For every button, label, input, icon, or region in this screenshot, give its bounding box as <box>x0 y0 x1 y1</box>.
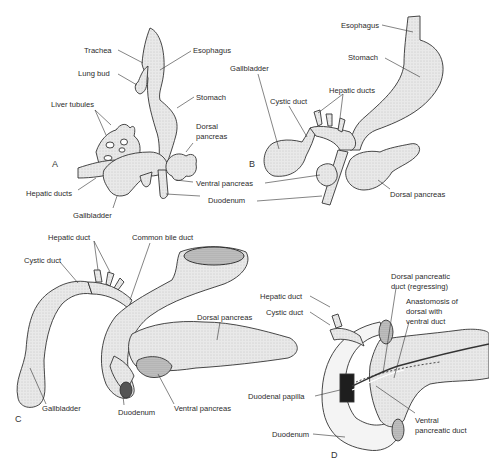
label-d-hepatic-duct: Hepatic duct <box>260 292 302 301</box>
label-a-gallbladder: Gallbladder <box>73 211 112 220</box>
label-c-common-bile-duct: Common bile duct <box>132 233 193 242</box>
label-c-gallbladder: Gallbladder <box>42 404 81 413</box>
panel-letter-c: C <box>15 414 22 424</box>
label-d-dorsal-pancreatic-duct-line1: Dorsal pancreatic <box>391 272 450 281</box>
panel-c-drawing <box>17 247 297 408</box>
label-d-anastomosis-line1: Anastomosis of <box>406 297 458 306</box>
label-b-dorsal-pancreas: Dorsal pancreas <box>390 190 445 199</box>
label-a-esophagus: Esophagus <box>193 46 231 55</box>
label-a-liver-tubules: Liver tubules <box>51 100 94 109</box>
label-a-hepatic-ducts: Hepatic ducts <box>26 189 72 198</box>
label-b-cystic-duct: Cystic duct <box>270 97 307 106</box>
label-c-duodenum: Duodenum <box>118 408 155 417</box>
label-a-ventral-pancreas: Ventral pancreas <box>196 179 253 188</box>
label-a-trachea: Trachea <box>84 46 112 55</box>
label-a-stomach: Stomach <box>196 93 226 102</box>
label-b-hepatic-ducts: Hepatic ducts <box>329 86 375 95</box>
label-d-duodenal-papilla: Duodenal papilla <box>248 392 305 401</box>
label-d-anastomosis-line3: ventral duct <box>406 317 445 326</box>
label-b-esophagus: Esophagus <box>341 21 379 30</box>
label-b-stomach: Stomach <box>348 53 378 62</box>
label-c-cystic-duct: Cystic duct <box>24 256 61 265</box>
label-a-dorsal-pancreas-line1: Dorsal <box>196 122 218 131</box>
label-d-anastomosis-line2: dorsal with <box>406 307 442 316</box>
label-c-dorsal-pancreas: Dorsal pancreas <box>197 313 252 322</box>
label-a-lung-bud: Lung bud <box>78 69 110 78</box>
panel-letter-b: B <box>249 159 255 169</box>
label-c-hepatic-duct: Hepatic duct <box>48 233 90 242</box>
label-d-duodenum: Duodenum <box>272 430 309 439</box>
label-a-duodenum: Duodenum <box>208 196 245 205</box>
panel-letter-a: A <box>52 159 58 169</box>
label-d-dorsal-pancreatic-duct-line2: duct (regressing) <box>391 282 448 291</box>
label-b-gallbladder: Gallbladder <box>230 64 269 73</box>
label-d-ventral-pancreatic-duct-line2: pancreatic duct <box>415 426 467 435</box>
label-d-ventral-pancreatic-duct-line1: Ventral <box>415 416 439 425</box>
label-a-dorsal-pancreas-line2: pancreas <box>196 132 227 141</box>
label-c-ventral-pancreas: Ventral pancreas <box>174 404 231 413</box>
label-d-cystic-duct: Cystic duct <box>266 308 303 317</box>
panel-letter-d: D <box>331 450 338 460</box>
panel-b-drawing <box>264 16 443 205</box>
